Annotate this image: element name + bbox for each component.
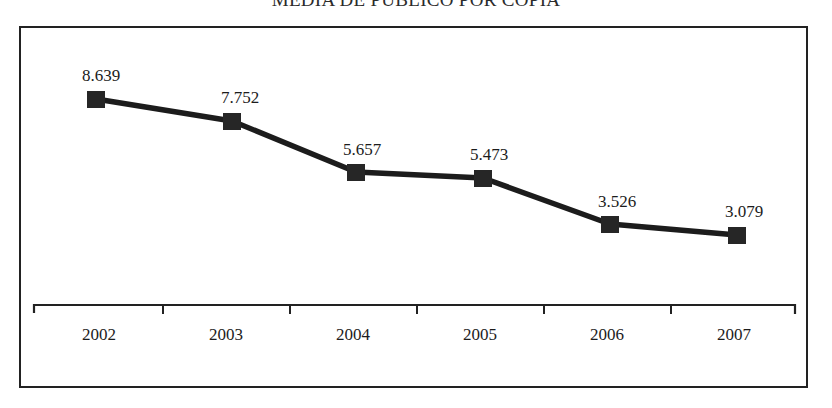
data-point-marker[interactable] <box>87 91 105 108</box>
data-point-marker[interactable] <box>601 216 619 233</box>
data-label: 3.079 <box>725 202 763 221</box>
line-chart: 8.639 7.752 5.657 5.473 3.526 3.079 2002… <box>0 0 832 408</box>
data-label: 3.526 <box>598 192 636 211</box>
x-tick-label: 2003 <box>209 325 243 344</box>
x-tick-label: 2005 <box>463 325 497 344</box>
data-point-marker[interactable] <box>474 170 492 187</box>
data-label: 7.752 <box>221 88 259 107</box>
data-label: 5.473 <box>470 145 508 164</box>
x-tick-label: 2002 <box>82 325 116 344</box>
x-tick-label: 2006 <box>590 325 624 344</box>
x-tick-label: 2004 <box>336 325 371 344</box>
x-axis-line <box>34 305 795 314</box>
x-tick-label: 2007 <box>717 325 752 344</box>
chart-page: MEDIA DE PUBLICO POR COPIA 8.639 7.752 5… <box>0 0 832 408</box>
series-line <box>96 99 737 235</box>
data-point-marker[interactable] <box>223 113 241 130</box>
data-point-marker[interactable] <box>728 227 746 244</box>
x-axis <box>34 305 795 314</box>
data-label: 5.657 <box>343 140 382 159</box>
data-point-marker[interactable] <box>347 164 365 181</box>
data-label: 8.639 <box>82 66 120 85</box>
